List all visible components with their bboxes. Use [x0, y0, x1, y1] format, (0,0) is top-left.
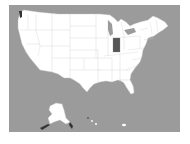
us-map: [0, 0, 190, 144]
state-florida: [120, 80, 134, 94]
state-indiana-highlight[interactable]: [113, 38, 120, 52]
alaska-aleutians: [40, 124, 50, 130]
contiguous-us: [18, 10, 168, 94]
state-hawaii: [87, 117, 126, 126]
alaska-panhandle: [69, 122, 73, 129]
state-alaska: [48, 103, 70, 124]
